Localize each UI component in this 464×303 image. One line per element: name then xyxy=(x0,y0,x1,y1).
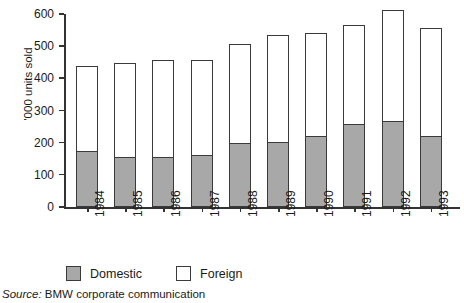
x-category-label-1985: 1985 xyxy=(131,190,145,217)
x-category-label-1987: 1987 xyxy=(208,190,222,217)
legend-label-foreign: Foreign xyxy=(200,267,242,281)
x-category-label-1991: 1991 xyxy=(360,190,374,217)
y-tick-200 xyxy=(59,142,64,144)
x-tick-1984 xyxy=(87,207,89,212)
x-tick-1993 xyxy=(431,207,433,212)
y-tick-label-600: 600 xyxy=(18,9,54,19)
x-category-label-1990: 1990 xyxy=(322,190,336,217)
y-tick-0 xyxy=(59,206,64,208)
y-tick-300 xyxy=(59,110,64,112)
y-tick-label-400: 400 xyxy=(18,73,54,83)
x-category-label-1992: 1992 xyxy=(399,190,413,217)
x-tick-1992 xyxy=(393,207,395,212)
y-tick-400 xyxy=(59,77,64,79)
source-prefix: Source: xyxy=(2,288,42,300)
x-category-label-1993: 1993 xyxy=(437,190,451,217)
x-category-label-1986: 1986 xyxy=(169,190,183,217)
legend-swatch-domestic-icon xyxy=(66,266,81,281)
y-tick-label-300: 300 xyxy=(18,106,54,116)
x-tick-1986 xyxy=(163,207,165,212)
y-tick-label-0: 0 xyxy=(18,202,54,212)
x-tick-1991 xyxy=(354,207,356,212)
y-axis-line xyxy=(64,14,66,208)
source-text: BMW corporate communication xyxy=(45,288,205,300)
y-tick-label-100: 100 xyxy=(18,170,54,180)
stacked-bar-chart: '000 units sold 0100200300400500600 1984… xyxy=(0,0,464,303)
chart-legend: Domestic Foreign xyxy=(66,266,242,281)
x-tick-1989 xyxy=(278,207,280,212)
x-tick-1988 xyxy=(240,207,242,212)
plot-area: 0100200300400500600 19841985198619871988… xyxy=(64,14,460,208)
y-tick-label-200: 200 xyxy=(18,138,54,148)
legend-swatch-foreign-icon xyxy=(176,266,191,281)
y-tick-600 xyxy=(59,13,64,15)
y-tick-label-500: 500 xyxy=(18,41,54,51)
x-category-label-1984: 1984 xyxy=(93,190,107,217)
x-tick-1990 xyxy=(316,207,318,212)
legend-label-domestic: Domestic xyxy=(90,267,142,281)
source-note: Source: BMW corporate communication xyxy=(2,288,205,300)
y-tick-100 xyxy=(59,174,64,176)
legend-item-foreign: Foreign xyxy=(176,266,242,281)
x-category-label-1988: 1988 xyxy=(246,190,260,217)
x-category-label-1989: 1989 xyxy=(284,190,298,217)
x-tick-1985 xyxy=(125,207,127,212)
x-tick-1987 xyxy=(202,207,204,212)
y-tick-500 xyxy=(59,45,64,47)
legend-item-domestic: Domestic xyxy=(66,266,142,281)
